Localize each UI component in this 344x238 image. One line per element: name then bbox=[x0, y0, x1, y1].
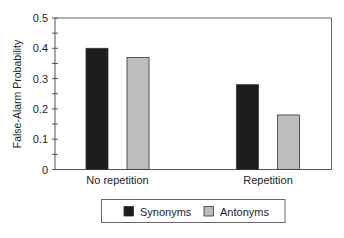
x-category-label: No repetition bbox=[86, 174, 148, 186]
bar-synonyms-no-repetition bbox=[86, 48, 108, 169]
y-axis-title: False-Alarm Probability bbox=[11, 39, 23, 148]
legend-swatch-antonyms bbox=[204, 207, 214, 217]
legend: SynonymsAntonyms bbox=[102, 200, 286, 223]
y-tick-label: 0.1 bbox=[33, 133, 48, 145]
y-tick-label: 0.4 bbox=[33, 42, 48, 54]
bar-antonyms-repetition bbox=[278, 115, 300, 170]
y-tick-label: 0 bbox=[42, 164, 48, 176]
bar-synonyms-repetition bbox=[237, 85, 259, 170]
y-tick-label: 0.5 bbox=[33, 12, 48, 24]
bars bbox=[86, 48, 300, 169]
x-category-label: Repetition bbox=[243, 174, 293, 186]
bar-antonyms-no-repetition bbox=[127, 57, 149, 169]
y-tick-label: 0.2 bbox=[33, 103, 48, 115]
y-tick-label: 0.3 bbox=[33, 73, 48, 85]
legend-swatch-synonyms bbox=[124, 207, 134, 217]
legend-label-synonyms: Synonyms bbox=[140, 206, 192, 218]
legend-label-antonyms: Antonyms bbox=[220, 206, 269, 218]
bar-chart: 00.10.20.30.40.5No repetitionRepetition … bbox=[0, 0, 344, 238]
